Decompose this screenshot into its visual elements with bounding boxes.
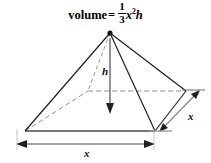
lateral-edges	[25, 33, 186, 131]
figure-canvas: volume=13x2h	[0, 0, 211, 163]
edge-apex-to-back-right	[110, 33, 186, 91]
base-edge-right	[155, 91, 186, 131]
visible-base-edges	[25, 91, 186, 131]
height-arrowhead-down	[106, 103, 114, 114]
pyramid-drawing	[0, 0, 211, 163]
base-depth-label: x	[188, 111, 194, 122]
edge-apex-to-front-left	[25, 33, 110, 131]
height-label: h	[102, 66, 108, 77]
base-width-label: x	[84, 148, 90, 159]
base-depth-dimension	[149, 90, 205, 132]
edge-apex-to-front-right	[110, 33, 155, 131]
hidden-edge-apex-to-back-left	[88, 33, 110, 91]
base-width-arrowhead-left	[16, 140, 27, 148]
hidden-base-edges	[25, 91, 186, 131]
base-width-arrowhead-right	[144, 140, 155, 148]
hidden-edge-front-left-to-back-left	[25, 91, 88, 131]
apex-vertex-marker	[107, 30, 112, 35]
